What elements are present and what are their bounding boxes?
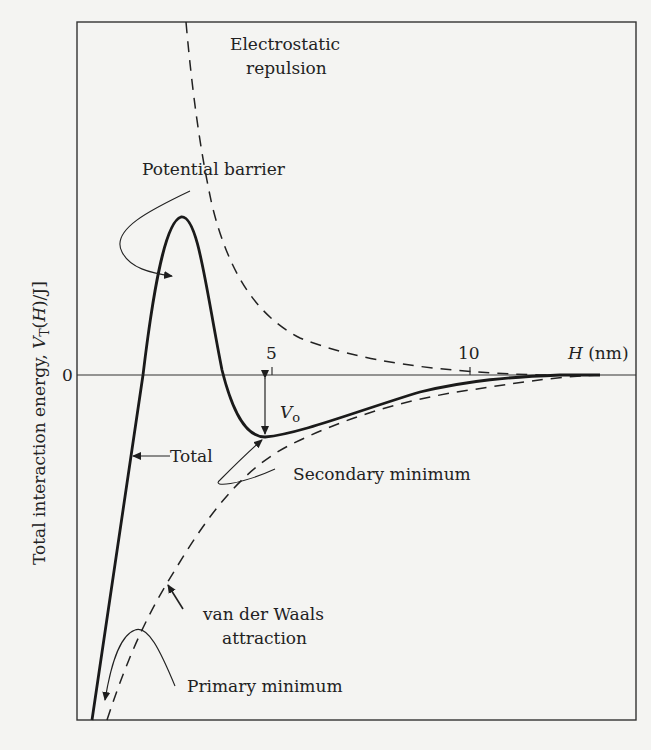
x-axis-label: H (nm) [567, 343, 629, 363]
secondary-minimum-label: Secondary minimum [293, 464, 471, 484]
zero-label: 0 [62, 365, 73, 385]
vdw-attraction-curve [107, 375, 600, 720]
total-label: Total [170, 446, 213, 466]
vdw-pointer [168, 585, 183, 609]
potential-barrier-label: Potential barrier [142, 159, 286, 179]
primary-minimum-pointer [105, 629, 175, 700]
electrostatic-label-line2: repulsion [246, 58, 327, 78]
y-axis-label: Total interaction energy, VT(H)/J] [29, 281, 52, 565]
potential-barrier-pointer [120, 191, 190, 276]
vdw-label-line1: van der Waals [202, 604, 324, 624]
tick-5-label: 5 [266, 343, 277, 363]
secondary-minimum-pointer [218, 440, 275, 484]
vo-label: Vo [280, 402, 300, 425]
dlvo-diagram: 0 5 10 H (nm) Total interaction energy, … [0, 0, 651, 750]
plot-frame [77, 22, 636, 720]
primary-minimum-label: Primary minimum [187, 676, 343, 696]
electrostatic-label-line1: Electrostatic [230, 34, 340, 54]
tick-10-label: 10 [458, 343, 480, 363]
vdw-label-line2: attraction [222, 628, 307, 648]
